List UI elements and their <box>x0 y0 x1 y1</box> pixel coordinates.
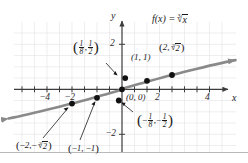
fraction-one-eighth: 18 <box>79 40 85 57</box>
label-point-origin: (0, 0) <box>126 93 146 102</box>
y-tick-label-2: 2 <box>110 39 115 49</box>
neg-cube-root-2-radical: 3√2 <box>37 140 48 150</box>
fraction-one-half: 12 <box>88 40 94 57</box>
label-point-neg2-neg-cuberoot2: (−2,−3√2) <box>16 140 52 151</box>
x-tick-label-neg2: −2 <box>65 93 75 103</box>
paren-open: ( <box>73 39 78 55</box>
radicand: x <box>182 14 188 25</box>
cube-root-x-radical: 3√x <box>175 13 188 24</box>
point-neg-eighth <box>116 98 122 104</box>
label-point-2-cuberoot2: (2,3√2) <box>159 42 185 53</box>
x-tick-label-2: 2 <box>155 93 160 103</box>
plot-background <box>0 0 248 163</box>
y-axis-label: y <box>111 11 115 21</box>
label-point-1-1: (1, 1) <box>131 53 151 62</box>
label-point-neg1-neg1: (−1, −1) <box>68 143 99 154</box>
point-1-1 <box>144 78 150 84</box>
function-title-text: f(x) = <box>152 13 175 24</box>
x-axis-label: x <box>232 93 236 103</box>
x-tick-label-4: 4 <box>205 93 210 103</box>
label-point-eighth-half: (18,12) <box>73 40 99 57</box>
point-neg1 <box>94 95 100 101</box>
x-tick-label-neg4: −4 <box>40 93 50 103</box>
paren-close: ) <box>94 39 99 55</box>
plot-canvas <box>0 0 248 163</box>
function-title: f(x) = 3√x <box>152 13 188 24</box>
label-point-neg-eighth-neg-half: (−18,−12) <box>137 113 173 130</box>
y-tick-label-neg2: −2 <box>106 129 116 139</box>
radical-index: 3 <box>178 13 181 19</box>
cube-root-2-radical: 3√2 <box>169 42 180 52</box>
point-eighth <box>122 75 128 81</box>
cube-root-function-figure: f(x) = 3√x y x −4 −2 2 4 2 −2 (18,12) (1… <box>0 0 248 163</box>
point-2-cuberoot2 <box>169 72 175 78</box>
point-origin <box>119 86 125 92</box>
